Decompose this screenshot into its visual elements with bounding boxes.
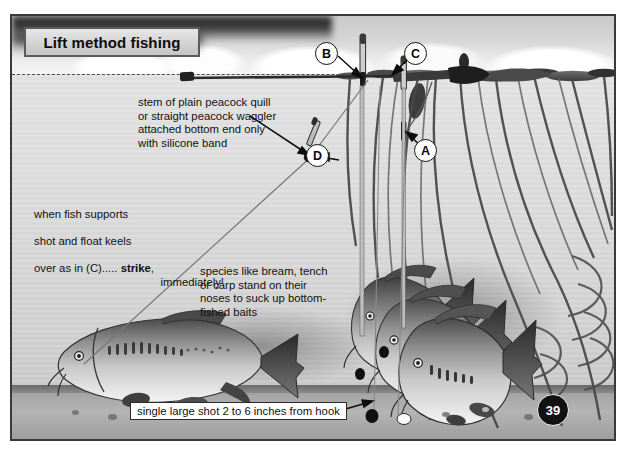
strike-note-line-1: when fish supports [34, 208, 128, 220]
pebble [524, 414, 533, 420]
marker-b[interactable]: B [315, 42, 338, 65]
water-surface-line [12, 74, 614, 75]
shot-label: single large shot 2 to 6 inches from hoo… [130, 402, 347, 420]
strike-note-line-3c: , [151, 262, 154, 274]
species-note: species like bream, tench or carp stand … [200, 265, 385, 319]
pebble [72, 410, 79, 415]
figure-title: Lift method fishing [44, 34, 181, 51]
strike-note: when fish supports shot and float keels … [34, 194, 224, 303]
strike-note-line-3a: over as in (C)..... [34, 262, 121, 274]
pebble [442, 412, 450, 417]
figure-page: Lift method fishing stem of plain peacoc… [0, 0, 624, 462]
strike-note-line-4: immediately! [34, 276, 224, 290]
strike-emphasis: strike [121, 262, 151, 274]
strike-note-line-2: shot and float keels [34, 235, 131, 247]
title-plaque: Lift method fishing [24, 27, 200, 57]
marker-d[interactable]: D [306, 144, 329, 167]
pebble [482, 407, 489, 412]
marker-c[interactable]: C [404, 42, 427, 65]
marker-a[interactable]: A [414, 139, 437, 162]
page-number-badge: 39 [537, 394, 569, 426]
quill-note: stem of plain peacock quill or straight … [138, 96, 348, 150]
lake-bed-surface [12, 385, 614, 393]
pebble [108, 414, 117, 420]
illustration-frame: Lift method fishing stem of plain peacoc… [10, 14, 616, 441]
